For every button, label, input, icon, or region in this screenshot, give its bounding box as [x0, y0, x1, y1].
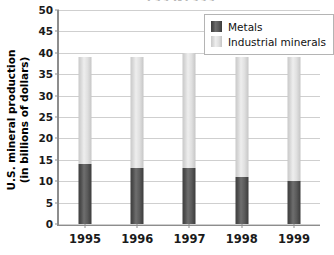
legend-label-metals: Metals	[228, 21, 262, 33]
x-tick-mark	[137, 224, 138, 228]
y-tick-label: 30	[38, 90, 53, 102]
x-tick-label: 1997	[173, 232, 205, 246]
y-axis-title-line-2: (in billions of dollars)	[18, 57, 31, 184]
legend-swatch-industrial-minerals-icon	[211, 36, 222, 47]
y-tick-label: 5	[46, 197, 53, 209]
bar-segment-metals[interactable]	[235, 177, 248, 224]
stacked-bar[interactable]	[79, 57, 92, 224]
y-tick-label: 20	[38, 132, 53, 144]
y-axis-title: U.S. mineral production (in billions of …	[2, 20, 34, 220]
legend-item-metals: Metals	[211, 19, 326, 34]
y-tick-label: 35	[38, 68, 53, 80]
x-tick-mark	[241, 224, 242, 228]
x-tick-label: 1996	[121, 232, 153, 246]
bar-segment-industrial-minerals[interactable]	[287, 57, 300, 181]
bar-group[interactable]: 1996	[111, 10, 163, 224]
y-axis-title-line-1: U.S. mineral production	[5, 50, 18, 191]
y-tick-label: 25	[38, 111, 53, 123]
x-tick-mark	[85, 224, 86, 228]
y-tick-label: 40	[38, 47, 53, 59]
bar-segment-industrial-minerals[interactable]	[235, 57, 248, 177]
stacked-bar[interactable]	[183, 53, 196, 224]
x-tick-mark	[293, 224, 294, 228]
chart-title: 1995-1999	[120, 0, 240, 1]
bar-segment-industrial-minerals[interactable]	[79, 57, 92, 164]
y-tick-label: 10	[38, 175, 53, 187]
bar-segment-metals[interactable]	[131, 168, 144, 224]
bar-group[interactable]: 1995	[59, 10, 111, 224]
legend-label-industrial-minerals: Industrial minerals	[228, 36, 326, 48]
x-tick-mark	[189, 224, 190, 228]
chart-legend: Metals Industrial minerals	[204, 14, 334, 55]
y-tick-label: 15	[38, 154, 53, 166]
y-tick-label: 0	[46, 218, 53, 230]
y-tick-label: 50	[38, 4, 53, 16]
x-tick-label: 1999	[278, 232, 310, 246]
bar-segment-metals[interactable]	[79, 164, 92, 224]
stacked-bar[interactable]	[235, 57, 248, 224]
bar-segment-metals[interactable]	[287, 181, 300, 224]
bar-segment-metals[interactable]	[183, 168, 196, 224]
y-tick-label: 45	[38, 25, 53, 37]
x-tick-label: 1998	[226, 232, 258, 246]
legend-swatch-metals-icon	[211, 21, 222, 32]
x-tick-label: 1995	[69, 232, 101, 246]
stacked-bar[interactable]	[287, 57, 300, 224]
stacked-bar[interactable]	[131, 57, 144, 224]
bar-segment-industrial-minerals[interactable]	[183, 53, 196, 169]
legend-item-industrial-minerals: Industrial minerals	[211, 34, 326, 49]
bar-segment-industrial-minerals[interactable]	[131, 57, 144, 168]
